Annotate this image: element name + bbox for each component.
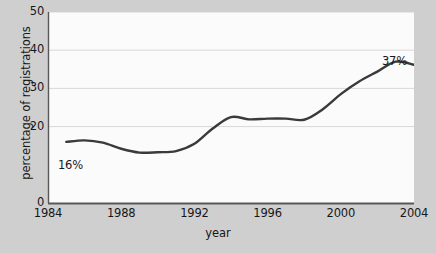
x-axis-tick-label: 1992 xyxy=(180,206,208,220)
x-axis-tick-label: 2000 xyxy=(327,206,355,220)
chart-canvas xyxy=(48,12,414,203)
y-axis-tick-label: 50 xyxy=(0,4,44,18)
x-axis-tick-label: 2004 xyxy=(400,206,428,220)
data-series-line xyxy=(66,61,414,152)
x-axis-tick-label: 1988 xyxy=(107,206,135,220)
y-axis-tick-label: 40 xyxy=(0,42,44,56)
x-axis-title: year xyxy=(0,226,436,240)
annotation-peak-value: 37% xyxy=(382,54,407,68)
plot-area xyxy=(48,12,414,203)
x-axis-tick-label: 1984 xyxy=(34,206,62,220)
y-axis-tick-label: 20 xyxy=(0,119,44,133)
y-axis-tick-label: 30 xyxy=(0,80,44,94)
chart-figure: percentage of registrations 020304050 19… xyxy=(0,0,436,253)
gridlines xyxy=(48,12,414,127)
x-axis-tick-label: 1996 xyxy=(253,206,281,220)
annotation-start-value: 16% xyxy=(58,158,83,172)
